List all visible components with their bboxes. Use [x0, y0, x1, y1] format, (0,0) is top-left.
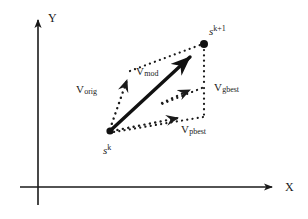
v-pbest-label: Vpbest: [181, 124, 206, 136]
v-pbest-label-base: V: [181, 123, 189, 135]
v-gbest-shaft: [162, 90, 190, 103]
next-position-label: sk+1: [209, 25, 226, 37]
v-gbest-label: Vgbest: [214, 82, 239, 94]
construction-gbest-close: [162, 88, 202, 104]
current-position-label-sup: k: [107, 143, 111, 152]
v-orig-label: Vorig: [76, 84, 97, 96]
pso-velocity-diagram: Y X sk sk+1 Vorig Vmod Vpbest Vgbest: [0, 0, 308, 219]
current-position-label: sk: [103, 144, 111, 156]
axes-group: [20, 20, 272, 205]
x-axis-label: X: [285, 181, 294, 193]
v-gbest-label-base: V: [214, 81, 222, 93]
v-mod-label-sub: mod: [144, 69, 158, 78]
dotted-vectors-group: [110, 80, 190, 131]
v-orig-label-sub: orig: [84, 87, 97, 96]
v-pbest-label-sub: pbest: [189, 127, 206, 136]
diagram-canvas: [0, 0, 308, 219]
v-mod-label-base: V: [136, 65, 144, 77]
v-mod-label: Vmod: [136, 66, 158, 78]
next-position-label-sup: k+1: [213, 24, 226, 33]
y-axis-label: Y: [48, 12, 57, 24]
v-gbest-label-sub: gbest: [222, 85, 239, 94]
current-position-dot: [106, 127, 113, 134]
v-orig-label-base: V: [76, 83, 84, 95]
next-position-dot: [200, 40, 208, 48]
